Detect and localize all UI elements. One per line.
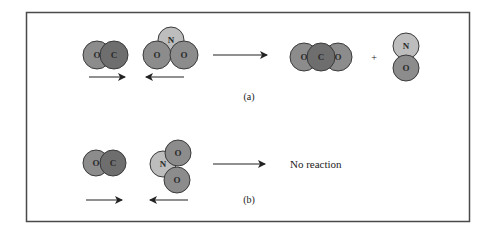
co2-molecule: O C O xyxy=(290,43,352,71)
co-molecule-a: O C xyxy=(83,41,128,69)
atom-label: C xyxy=(318,52,325,62)
atom-label: O xyxy=(173,175,180,185)
atom-label: N xyxy=(160,159,167,169)
panel-a: O C N O O O C O + N xyxy=(83,27,419,103)
atom-label: O xyxy=(334,52,341,62)
plus-sign: + xyxy=(371,52,377,63)
atom-label: N xyxy=(168,35,175,45)
panel-b: O C N O O No reaction (b) xyxy=(83,140,342,206)
atom-label: O xyxy=(92,158,99,168)
atom-label: O xyxy=(93,50,100,60)
atom-label: O xyxy=(174,148,181,158)
atom-label: C xyxy=(110,158,117,168)
co-molecule-b: O C xyxy=(83,150,126,176)
atom-label: N xyxy=(403,41,410,51)
no-reaction-label: No reaction xyxy=(290,158,342,170)
atom-label: O xyxy=(180,50,187,60)
atom-label: C xyxy=(111,50,118,60)
no-molecule: N O xyxy=(393,33,419,81)
atom-label: O xyxy=(153,50,160,60)
reaction-orientation-diagram: O C N O O O C O + N xyxy=(0,0,487,232)
panel-b-caption: (b) xyxy=(243,194,255,206)
atom-label: O xyxy=(402,63,409,73)
panel-a-caption: (a) xyxy=(243,91,254,103)
no2-molecule-b: N O O xyxy=(150,140,191,193)
atom-label: O xyxy=(300,52,307,62)
no2-molecule-a: N O O xyxy=(143,27,198,69)
